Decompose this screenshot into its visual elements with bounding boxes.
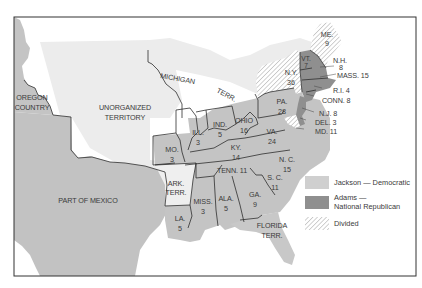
label-ohio-votes: 16 bbox=[240, 126, 248, 135]
label-sc-votes: 11 bbox=[271, 183, 278, 192]
label-ga: GA. bbox=[249, 190, 261, 199]
label-florida-2: TERR. bbox=[261, 231, 282, 240]
label-conn: CONN. 8 bbox=[322, 96, 351, 105]
label-va-votes: 24 bbox=[268, 137, 276, 146]
label-la: LA. bbox=[175, 214, 186, 223]
label-oregon: OREGON bbox=[16, 93, 47, 102]
label-ala: ALA. bbox=[218, 194, 233, 203]
election-map-1828: OREGON COUNTRY UNORGANIZED TERRITORY MIC… bbox=[0, 0, 422, 288]
label-unorganized: UNORGANIZED bbox=[99, 103, 151, 112]
label-ill-votes: 3 bbox=[196, 138, 200, 147]
label-florida: FLORIDA bbox=[257, 221, 288, 230]
label-ri: R.I. 4 bbox=[333, 86, 350, 95]
label-unorganized-2: TERRITORY bbox=[105, 113, 146, 122]
label-ala-votes: 5 bbox=[224, 204, 228, 213]
label-oregon-2: COUNTRY bbox=[15, 103, 50, 112]
label-la-votes: 5 bbox=[178, 224, 182, 233]
label-sc: S. C. bbox=[267, 173, 283, 182]
label-me: ME. bbox=[321, 30, 334, 39]
label-vt: VT. bbox=[301, 55, 311, 62]
label-ill: ILL. bbox=[192, 128, 204, 137]
label-del: DEL. 3 bbox=[315, 118, 336, 127]
label-miss: MISS. bbox=[193, 197, 212, 206]
label-ark-2: TERR. bbox=[165, 188, 186, 197]
legend-label-jackson: Jackson — Democratic bbox=[334, 178, 410, 187]
label-vt-votes: 7 bbox=[304, 62, 308, 69]
label-ny: N.Y. bbox=[285, 68, 298, 77]
label-md: MD. 11 bbox=[315, 127, 337, 136]
legend-swatch-jackson bbox=[305, 176, 329, 189]
label-nj: N.J. 8 bbox=[319, 109, 337, 118]
label-nc: N. C. bbox=[279, 155, 295, 164]
label-ga-votes: 9 bbox=[253, 200, 257, 209]
label-ny-votes: 36 bbox=[287, 78, 295, 87]
label-pa-votes: 28 bbox=[278, 107, 286, 116]
legend-label-divided: Divided bbox=[334, 219, 359, 228]
label-mass: MASS. 15 bbox=[337, 71, 369, 80]
label-ky-votes: 14 bbox=[232, 153, 240, 162]
legend-label-adams-2: National Republican bbox=[334, 202, 400, 211]
label-va: VA. bbox=[267, 127, 278, 136]
label-miss-votes: 3 bbox=[201, 207, 205, 216]
label-ohio: OHIO bbox=[235, 116, 253, 125]
label-mexico: PART OF MEXICO bbox=[58, 196, 118, 205]
label-mo: MO. bbox=[165, 145, 178, 154]
legend-swatch-divided bbox=[305, 217, 329, 230]
label-tenn: TENN. 11 bbox=[217, 166, 247, 175]
label-pa: PA. bbox=[277, 97, 288, 106]
map-canvas: OREGON COUNTRY UNORGANIZED TERRITORY MIC… bbox=[0, 0, 422, 288]
label-mo-votes: 3 bbox=[170, 155, 174, 164]
label-nc-votes: 15 bbox=[283, 165, 291, 174]
legend-label-adams: Adams — bbox=[334, 193, 367, 202]
label-ind-votes: 5 bbox=[218, 130, 222, 139]
label-me-votes: 9 bbox=[325, 39, 329, 48]
legend-swatch-adams bbox=[305, 196, 329, 209]
label-ky: KY. bbox=[231, 143, 241, 152]
label-ark: ARK. bbox=[168, 179, 184, 188]
label-ind: IND. bbox=[213, 120, 227, 129]
